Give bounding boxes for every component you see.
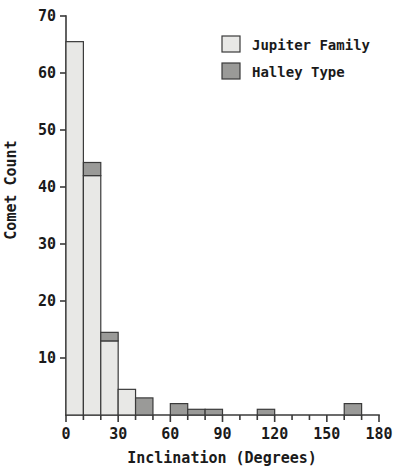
- histogram-bar: [344, 404, 361, 415]
- x-axis-ticks: 0306090120150180: [61, 415, 392, 443]
- histogram-bar: [101, 341, 118, 415]
- x-tick-label: 60: [161, 425, 179, 443]
- histogram-bar: [83, 162, 100, 175]
- histogram-bar: [66, 42, 83, 415]
- y-tick-label: 10: [38, 349, 56, 367]
- histogram-bar: [205, 409, 222, 415]
- chart-legend: Jupiter FamilyHalley Type: [222, 36, 371, 80]
- histogram-bar: [170, 404, 187, 415]
- histogram-bar: [136, 398, 153, 415]
- histogram-bar: [188, 409, 205, 415]
- x-tick-label: 0: [61, 425, 70, 443]
- bars-group: [66, 42, 362, 415]
- y-axis-ticks: 10203040506070: [38, 7, 66, 367]
- legend-swatch-halley-type: [222, 63, 240, 79]
- legend-swatch-jupiter-family: [222, 36, 240, 52]
- y-axis-title: Comet Count: [2, 140, 20, 239]
- histogram-bar: [118, 389, 135, 415]
- x-tick-label: 30: [109, 425, 127, 443]
- y-tick-label: 40: [38, 178, 56, 196]
- legend-label: Jupiter Family: [252, 37, 371, 53]
- chart-canvas: 10203040506070 0306090120150180 Inclinat…: [0, 0, 396, 469]
- x-tick-label: 120: [261, 425, 288, 443]
- histogram-bar: [101, 332, 118, 341]
- y-tick-label: 60: [38, 64, 56, 82]
- x-tick-label: 90: [213, 425, 231, 443]
- y-tick-label: 30: [38, 235, 56, 253]
- comet-inclination-histogram: 10203040506070 0306090120150180 Inclinat…: [0, 0, 396, 469]
- y-tick-label: 70: [38, 7, 56, 25]
- x-tick-label: 180: [365, 425, 392, 443]
- y-tick-label: 50: [38, 121, 56, 139]
- legend-label: Halley Type: [252, 64, 345, 80]
- y-tick-label: 20: [38, 292, 56, 310]
- x-tick-label: 150: [313, 425, 340, 443]
- x-axis-title: Inclination (Degrees): [127, 449, 317, 467]
- histogram-bar: [257, 409, 274, 415]
- histogram-bar: [83, 176, 100, 415]
